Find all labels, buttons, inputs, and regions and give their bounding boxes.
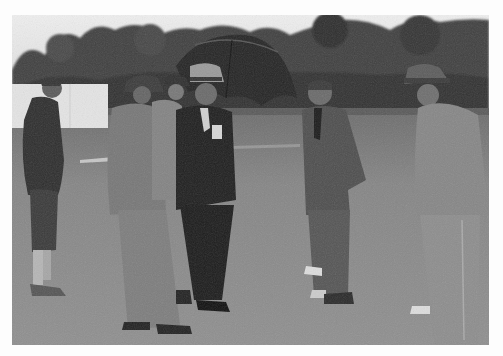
photograph <box>0 0 503 356</box>
film-grain <box>12 15 489 345</box>
photo-frame: Six men in suits and hats stand on a gra… <box>0 0 503 356</box>
